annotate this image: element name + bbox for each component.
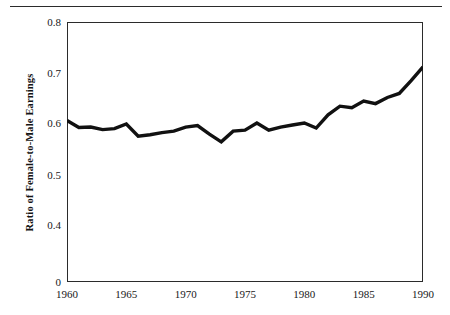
figure-container: Ratio of Female-to-Male Earnings 00.40.5… — [0, 0, 450, 315]
x-axis-tick-labels: 1960196519701975198019851990 — [67, 289, 423, 305]
y-tick-label: 0.7 — [47, 68, 61, 79]
plot-area — [67, 22, 423, 282]
y-tick-label: 0.4 — [47, 220, 61, 231]
y-tick-label: 0.5 — [47, 170, 61, 181]
y-tick-label: 0.8 — [47, 17, 61, 28]
line-series-earnings-ratio — [67, 22, 423, 282]
x-tick-label: 1965 — [115, 289, 137, 300]
x-tick-label: 1975 — [234, 289, 256, 300]
series-polyline — [67, 67, 423, 142]
x-tick-label: 1990 — [412, 289, 434, 300]
x-tick-label: 1980 — [293, 289, 315, 300]
x-tick-label: 1985 — [353, 289, 375, 300]
top-horizontal-rule — [10, 6, 442, 7]
y-tick-label: 0.6 — [47, 118, 61, 129]
x-tick-label: 1970 — [175, 289, 197, 300]
y-axis-tick-labels: 00.40.50.60.70.8 — [28, 22, 61, 282]
y-tick-label: 0 — [56, 277, 62, 288]
x-tick-label: 1960 — [56, 289, 78, 300]
